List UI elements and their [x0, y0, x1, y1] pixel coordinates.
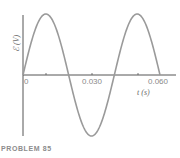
x-axis-label: t (s) [137, 88, 150, 97]
x-tick-label-0030: 0.030 [82, 77, 102, 86]
y-axis-label: ℰ (V) [12, 35, 21, 52]
x-tick-label-0060: 0.060 [148, 77, 168, 86]
problem-caption: PROBLEM 85 [1, 145, 52, 152]
x-tick-label-0: 0 [24, 77, 28, 86]
